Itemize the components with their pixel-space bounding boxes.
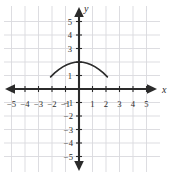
x-axis-arrow-right <box>147 84 157 94</box>
y-tick-label: −4 <box>64 138 74 148</box>
y-tick-label: −2 <box>64 111 73 121</box>
y-tick-label: −5 <box>64 152 73 162</box>
x-tick-label: −5 <box>7 99 16 109</box>
x-tick-label: −2 <box>47 99 56 109</box>
coordinate-graph-figure: −5 −4 −3 −2 −1 1 2 3 4 5 5 4 3 1 −1 −2 −… <box>0 0 173 176</box>
graph-canvas: −5 −4 −3 −2 −1 1 2 3 4 5 5 4 3 1 −1 −2 −… <box>0 0 173 176</box>
x-tick-label: 1 <box>90 99 94 109</box>
y-axis-arrow-down <box>74 161 84 171</box>
x-axis-label: x <box>161 84 167 95</box>
x-tick-labels: −5 −4 −3 −2 −1 1 2 3 4 5 <box>7 99 149 109</box>
x-axis-arrow-left <box>5 84 15 94</box>
y-tick-label: 5 <box>68 17 72 27</box>
x-tick-label: 4 <box>131 99 136 109</box>
y-tick-label: 1 <box>68 71 72 81</box>
x-tick-label: 3 <box>117 99 121 109</box>
x-axis <box>5 84 157 94</box>
y-tick-label: 3 <box>68 44 72 54</box>
x-tick-label: 2 <box>104 99 108 109</box>
x-tick-label: −3 <box>34 99 43 109</box>
y-tick-label: −1 <box>64 98 73 108</box>
y-axis-arrow-up <box>74 7 84 17</box>
x-tick-label: −4 <box>20 99 30 109</box>
y-tick-label: 4 <box>68 30 73 40</box>
y-tick-label: −3 <box>64 125 73 135</box>
x-tick-label: 5 <box>144 99 148 109</box>
y-axis-label: y <box>83 3 89 14</box>
